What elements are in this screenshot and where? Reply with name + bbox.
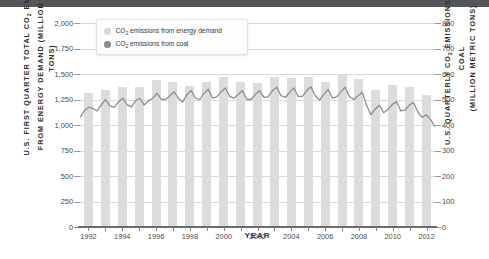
x-tick-label: 2004 bbox=[283, 232, 299, 241]
y-tick-label-right: 400 bbox=[442, 121, 454, 130]
y-tick-label-left: 1,500 bbox=[55, 70, 74, 79]
y-tick-label-left: 750 bbox=[61, 146, 73, 155]
y-tick-label-right: 700 bbox=[442, 44, 454, 53]
y-tick-label-left: 2,000 bbox=[55, 19, 74, 28]
x-tick-label: 1998 bbox=[182, 232, 198, 241]
y-tick-label-right: 100 bbox=[442, 197, 454, 206]
y-tick-mark-right bbox=[435, 100, 441, 101]
y-tick-label-right: 500 bbox=[442, 95, 454, 104]
figure: U.S. FIRST QUARTER TOTAL CO2 EMISSIONS F… bbox=[0, 7, 489, 243]
legend-item-energy-demand: CO2 emissions from energy demand bbox=[104, 25, 240, 38]
y-tick-mark-right bbox=[435, 151, 441, 152]
chart-page: U.S. FIRST QUARTER TOTAL CO2 EMISSIONS F… bbox=[0, 0, 489, 259]
legend-label-energy-demand: CO2 emissions from energy demand bbox=[116, 27, 223, 36]
y-tick-mark-right bbox=[435, 202, 441, 203]
y-tick-label-right: 600 bbox=[442, 70, 454, 79]
y-tick-label-right: 800 bbox=[442, 19, 454, 28]
y-tick-mark-right bbox=[435, 125, 441, 126]
y-tick-mark-right bbox=[435, 74, 441, 75]
page-header-strip bbox=[0, 0, 489, 7]
legend-label-coal: CO2 emissions from coal bbox=[116, 40, 189, 49]
legend-swatch-icon bbox=[104, 41, 111, 48]
x-tick-label: 1994 bbox=[114, 232, 130, 241]
x-tick-label: 2010 bbox=[385, 232, 401, 241]
x-tick-label: 2000 bbox=[215, 232, 231, 241]
y-tick-label-left: 1,250 bbox=[55, 95, 74, 104]
y-tick-label-left: 1,750 bbox=[55, 44, 74, 53]
coal-line-path bbox=[80, 87, 435, 127]
x-tick-label: 2006 bbox=[317, 232, 333, 241]
y-tick-label-left: 250 bbox=[61, 197, 73, 206]
y-tick-label-left: 0 bbox=[69, 223, 73, 232]
y-tick-mark-right bbox=[435, 49, 441, 50]
x-axis-line bbox=[78, 226, 437, 228]
y-axis-left-title-line1: U.S. FIRST QUARTER TOTAL CO2 EMISSIONS bbox=[22, 0, 31, 156]
legend: CO2 emissions from energy demand CO2 emi… bbox=[96, 19, 248, 55]
x-tick-label: 2002 bbox=[249, 232, 265, 241]
y-axis-left-title: U.S. FIRST QUARTER TOTAL CO2 EMISSIONS F… bbox=[21, 0, 47, 156]
y-tick-mark-right bbox=[435, 176, 441, 177]
y-tick-label-right: 300 bbox=[442, 146, 454, 155]
x-tick-label: 2008 bbox=[351, 232, 367, 241]
y-tick-label-right: 0 bbox=[442, 223, 446, 232]
y-tick-mark-right bbox=[435, 23, 441, 24]
legend-item-coal: CO2 emissions from coal bbox=[104, 38, 240, 51]
page-footer-text-cropped bbox=[8, 248, 238, 256]
y-tick-label-left: 1,000 bbox=[55, 121, 74, 130]
y-axis-right-title-line2: (MILLION METRIC TONS) bbox=[467, 0, 478, 156]
y-tick-label-right: 200 bbox=[442, 172, 454, 181]
x-tick-label: 1996 bbox=[148, 232, 164, 241]
legend-swatch-icon bbox=[104, 28, 111, 35]
x-tick-label: 2012 bbox=[418, 232, 434, 241]
y-tick-label-left: 500 bbox=[61, 172, 73, 181]
x-tick-label: 1992 bbox=[80, 232, 96, 241]
